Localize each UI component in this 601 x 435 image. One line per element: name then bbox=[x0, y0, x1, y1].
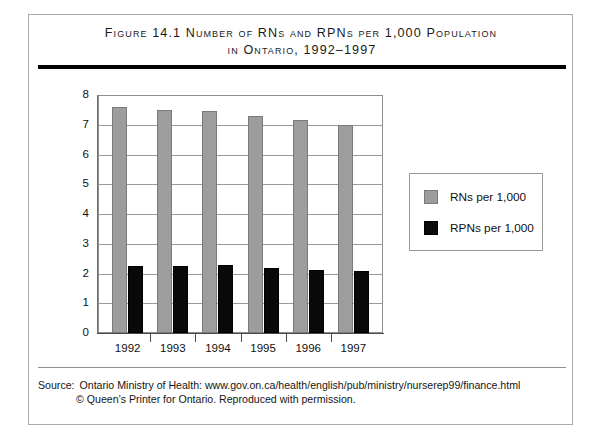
y-tick-label-7: 7 bbox=[63, 118, 89, 130]
source-divider-rule bbox=[38, 367, 566, 368]
bar-group-1993 bbox=[157, 95, 188, 333]
x-tick-label-1992: 1992 bbox=[104, 342, 152, 354]
bar-rpn-1994[interactable] bbox=[218, 265, 233, 333]
bar-group-1994 bbox=[202, 95, 233, 333]
bar-group-1992 bbox=[112, 95, 143, 333]
figure-title: Figure 14.1 Number of RNs and RPNs per 1… bbox=[38, 25, 566, 59]
source-line-1: Source:Ontario Ministry of Health: www.g… bbox=[38, 378, 566, 392]
legend-item-rpns: RPNs per 1,000 bbox=[424, 219, 534, 237]
bar-rn-1997[interactable] bbox=[338, 125, 353, 333]
title-divider-rule bbox=[38, 65, 566, 69]
chart-plot-area: 012345678 199219931994199519961997 bbox=[98, 95, 383, 333]
bar-group-1997 bbox=[338, 95, 369, 333]
x-axis-tick-1 bbox=[150, 333, 151, 342]
y-tick-label-1: 1 bbox=[63, 296, 89, 308]
y-tick-label-8: 8 bbox=[63, 88, 89, 100]
y-tick-label-4: 4 bbox=[63, 207, 89, 219]
bar-group-1995 bbox=[248, 95, 279, 333]
legend-item-rns: RNs per 1,000 bbox=[424, 188, 526, 206]
y-tick-label-5: 5 bbox=[63, 177, 89, 189]
bar-rpn-1992[interactable] bbox=[128, 266, 143, 333]
figure-title-line-2: in Ontario, 1992–1997 bbox=[38, 42, 566, 59]
x-tick-label-1997: 1997 bbox=[329, 342, 377, 354]
bar-rpn-1996[interactable] bbox=[309, 270, 324, 333]
bar-rpn-1993[interactable] bbox=[173, 266, 188, 333]
figure-title-line-1: Figure 14.1 Number of RNs and RPNs per 1… bbox=[38, 25, 566, 42]
bar-rn-1994[interactable] bbox=[202, 111, 217, 333]
source-note: Source:Ontario Ministry of Health: www.g… bbox=[38, 378, 566, 406]
legend-label-rpns: RPNs per 1,000 bbox=[450, 221, 534, 235]
bar-rn-1995[interactable] bbox=[248, 116, 263, 333]
x-axis-tick-4 bbox=[286, 333, 287, 342]
source-label: Source: bbox=[38, 379, 75, 391]
legend-swatch-rpns-icon bbox=[424, 221, 438, 235]
x-axis-tick-5 bbox=[331, 333, 332, 342]
figure-container: Figure 14.1 Number of RNs and RPNs per 1… bbox=[28, 14, 573, 425]
bar-rpn-1997[interactable] bbox=[354, 271, 369, 333]
bar-rn-1992[interactable] bbox=[112, 107, 127, 333]
x-tick-label-1996: 1996 bbox=[284, 342, 332, 354]
y-tick-label-2: 2 bbox=[63, 267, 89, 279]
source-url-text: Ontario Ministry of Health: www.gov.on.c… bbox=[80, 379, 521, 391]
bar-group-1996 bbox=[293, 95, 324, 333]
chart-legend: RNs per 1,000 RPNs per 1,000 bbox=[409, 173, 543, 251]
legend-swatch-rns-icon bbox=[424, 190, 438, 204]
x-axis-tick-3 bbox=[241, 333, 242, 342]
y-tick-label-6: 6 bbox=[63, 148, 89, 160]
bar-rn-1996[interactable] bbox=[293, 120, 308, 333]
legend-label-rns: RNs per 1,000 bbox=[450, 190, 526, 204]
source-copyright: © Queen’s Printer for Ontario. Reproduce… bbox=[76, 392, 566, 406]
x-tick-label-1993: 1993 bbox=[149, 342, 197, 354]
x-tick-label-1995: 1995 bbox=[239, 342, 287, 354]
x-tick-label-1994: 1994 bbox=[194, 342, 242, 354]
y-tick-label-0: 0 bbox=[63, 326, 89, 338]
bar-rn-1993[interactable] bbox=[157, 110, 172, 333]
x-axis-tick-2 bbox=[195, 333, 196, 342]
bar-rpn-1995[interactable] bbox=[264, 268, 279, 333]
y-tick-label-3: 3 bbox=[63, 237, 89, 249]
